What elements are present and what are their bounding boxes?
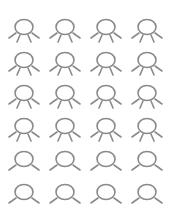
sun-legs-icon — [48, 114, 89, 145]
sun-legs-icon — [48, 81, 89, 112]
sun-legs-icon — [130, 48, 171, 79]
sun-legs-icon — [130, 81, 171, 112]
sun-legs-icon — [89, 48, 130, 79]
magnifier-legs-icon — [89, 147, 130, 178]
sun-legs-icon — [130, 114, 171, 145]
icon-grid — [7, 15, 175, 213]
sun-legs-icon — [7, 114, 48, 145]
icon-row — [7, 81, 175, 112]
sun-legs-icon — [89, 15, 130, 46]
magnifier-legs-icon — [130, 180, 171, 211]
sun-legs-icon — [7, 15, 48, 46]
icon-row — [7, 114, 175, 145]
sun-legs-icon — [7, 48, 48, 79]
magnifier-legs-icon — [130, 147, 171, 178]
sun-legs-icon — [48, 15, 89, 46]
sun-legs-icon — [7, 81, 48, 112]
sun-legs-icon — [89, 81, 130, 112]
magnifier-legs-icon — [89, 180, 130, 211]
sun-legs-icon — [48, 48, 89, 79]
icon-row — [7, 147, 175, 178]
icon-row — [7, 15, 175, 46]
icon-row — [7, 180, 175, 211]
magnifier-legs-icon — [7, 147, 48, 178]
magnifier-legs-icon — [7, 180, 48, 211]
magnifier-legs-icon — [48, 180, 89, 211]
sun-legs-icon — [89, 114, 130, 145]
sun-legs-icon — [130, 15, 171, 46]
magnifier-legs-icon — [48, 147, 89, 178]
icon-row — [7, 48, 175, 79]
